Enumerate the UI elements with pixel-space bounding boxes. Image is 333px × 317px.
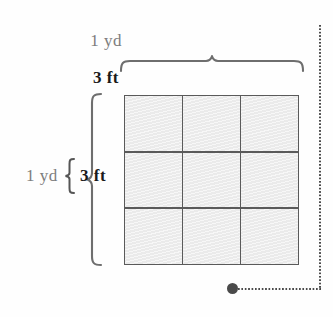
grid-cell [125, 153, 182, 208]
grid-cell [125, 209, 182, 264]
figure-canvas: 1 yd 3 ft 1 yd 3 ft [0, 0, 333, 317]
callout-dot-icon [227, 283, 238, 294]
horizontal-dotted-leader [238, 288, 321, 290]
grid-cell [183, 153, 240, 208]
grid-cell [241, 209, 298, 264]
grid-cell [183, 209, 240, 264]
left-yard-label: 1 yd [26, 166, 58, 186]
grid-cell [183, 96, 240, 151]
top-yard-label: 1 yd [0, 31, 333, 51]
vertical-dotted-leader [319, 25, 321, 290]
grid-cell [241, 153, 298, 208]
grid-cell [241, 96, 298, 151]
top-feet-label: 3 ft [0, 68, 333, 88]
square-yard-grid [124, 95, 299, 265]
left-feet-label: 3 ft [80, 166, 106, 186]
small-left-brace-icon [62, 157, 78, 195]
grid-cell [125, 96, 182, 151]
